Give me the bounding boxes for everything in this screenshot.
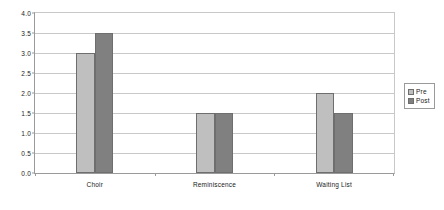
y-axis-tick-mark bbox=[32, 113, 35, 114]
y-axis-tick-mark bbox=[32, 153, 35, 154]
gridline bbox=[35, 33, 394, 34]
y-axis-tick-mark bbox=[32, 53, 35, 54]
y-axis-tick-label: 3.0 bbox=[21, 50, 31, 57]
x-axis-category-label: Choir bbox=[87, 181, 104, 188]
bar bbox=[316, 93, 335, 173]
x-axis-tick-mark bbox=[155, 173, 156, 176]
legend-swatch-icon bbox=[408, 89, 414, 95]
y-axis-tick-label: 1.0 bbox=[21, 130, 31, 137]
chart-legend: PrePost bbox=[404, 83, 435, 109]
plot-area: 0.00.51.01.52.02.53.03.54.0 ChoirReminis… bbox=[34, 12, 395, 174]
legend-item-label: Post bbox=[416, 97, 430, 104]
y-axis-tick-label: 0.0 bbox=[21, 170, 31, 177]
x-axis-category-label: Waiting List bbox=[316, 181, 352, 188]
y-axis-tick-label: 2.5 bbox=[21, 70, 31, 77]
legend-swatch-icon bbox=[408, 98, 414, 104]
y-axis-tick-label: 1.5 bbox=[21, 110, 31, 117]
bar bbox=[196, 113, 215, 173]
y-axis-tick-mark bbox=[32, 93, 35, 94]
bar bbox=[95, 33, 114, 173]
y-axis-tick-mark bbox=[32, 33, 35, 34]
bar bbox=[334, 113, 353, 173]
y-axis-tick-mark bbox=[32, 73, 35, 74]
y-axis-tick-label: 4.0 bbox=[21, 10, 31, 17]
legend-item-label: Pre bbox=[416, 88, 427, 95]
x-axis-tick-mark bbox=[35, 173, 36, 176]
y-axis-tick-mark bbox=[32, 133, 35, 134]
y-axis-tick-label: 3.5 bbox=[21, 30, 31, 37]
x-axis-category-label: Reminiscence bbox=[193, 181, 236, 188]
x-axis-tick-mark bbox=[274, 173, 275, 176]
legend-item: Pre bbox=[408, 87, 430, 96]
y-axis-tick-label: 2.0 bbox=[21, 90, 31, 97]
x-axis-tick-mark bbox=[393, 173, 394, 176]
legend-item: Post bbox=[408, 96, 430, 105]
y-axis-tick-mark bbox=[32, 13, 35, 14]
bar bbox=[76, 53, 95, 173]
bar-chart: 0.00.51.01.52.02.53.03.54.0 ChoirReminis… bbox=[0, 0, 444, 210]
y-axis-tick-label: 0.5 bbox=[21, 150, 31, 157]
bar bbox=[215, 113, 234, 173]
